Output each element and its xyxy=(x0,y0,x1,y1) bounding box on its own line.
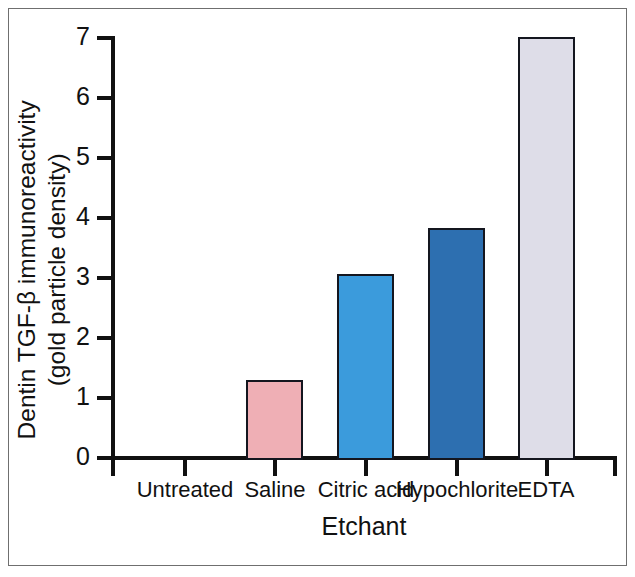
y-tick-2 xyxy=(97,336,115,340)
bar-edta[interactable] xyxy=(518,37,575,460)
y-tick-3 xyxy=(97,276,115,280)
bar-chart-plot: 7 6 5 4 3 2 1 0 xyxy=(0,0,635,577)
bar-hypochlorite[interactable] xyxy=(428,228,485,460)
x-tick-edta xyxy=(545,460,549,476)
y-tick-5 xyxy=(97,156,115,160)
y-tick-6 xyxy=(97,96,115,100)
y-axis-title-line2: (gold particle density) xyxy=(42,60,72,480)
y-tick-1 xyxy=(97,396,115,400)
bar-citric-acid[interactable] xyxy=(337,274,394,460)
y-tick-4 xyxy=(97,216,115,220)
y-axis-title-line1: Dentin TGF-β immunoreactivity xyxy=(12,60,42,480)
y-tick-label-7-wrap: 7 xyxy=(38,24,90,50)
x-axis-title: Etchant xyxy=(111,512,617,541)
y-axis-title: Dentin TGF-β immunoreactivity (gold part… xyxy=(12,60,72,480)
y-tick-7 xyxy=(97,36,115,40)
x-tick-hypochlorite xyxy=(455,460,459,476)
y-tick-label-7: 7 xyxy=(44,24,90,49)
x-tick-label-edta: EDTA xyxy=(517,478,574,502)
bar-saline[interactable] xyxy=(246,380,303,460)
x-tick-untreated xyxy=(183,460,187,476)
figure: 7 6 5 4 3 2 1 0 xyxy=(0,0,635,577)
x-axis-end-tick xyxy=(613,460,617,476)
x-axis-origin-tick xyxy=(111,460,115,476)
x-tick-citric-acid xyxy=(364,460,368,476)
x-tick-label-saline: Saline xyxy=(244,478,305,502)
x-tick-label-untreated: Untreated xyxy=(137,478,234,502)
x-tick-label-hypochlorite: Hypochlorite xyxy=(396,478,518,502)
x-tick-saline xyxy=(273,460,277,476)
y-tick-0 xyxy=(97,456,115,460)
